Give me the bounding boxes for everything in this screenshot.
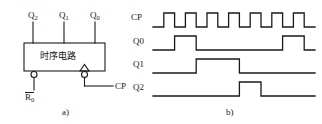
waveform-label-q1: Q1 bbox=[133, 60, 144, 69]
panel-b-timing-diagram bbox=[0, 0, 322, 124]
waveform-q1 bbox=[153, 59, 315, 73]
waveform-label-cp: CP bbox=[131, 13, 142, 22]
waveform-q0 bbox=[153, 36, 315, 50]
waveform-label-q2: Q2 bbox=[133, 83, 144, 92]
waveform-q2 bbox=[153, 82, 315, 96]
waveform-label-q0: Q0 bbox=[133, 37, 144, 46]
waveform-cp bbox=[153, 13, 315, 27]
figure-root: Q2 Q1 Q0 时序电路 R0 CP a) CP Q0 Q1 Q2 bbox=[0, 0, 322, 124]
caption-panel-b: b) bbox=[226, 108, 234, 117]
